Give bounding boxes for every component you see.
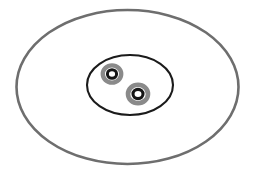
diagram-canvas: [0, 0, 264, 175]
nucleus-ellipse: [87, 55, 173, 115]
cell-diagram-figure: [0, 0, 264, 175]
